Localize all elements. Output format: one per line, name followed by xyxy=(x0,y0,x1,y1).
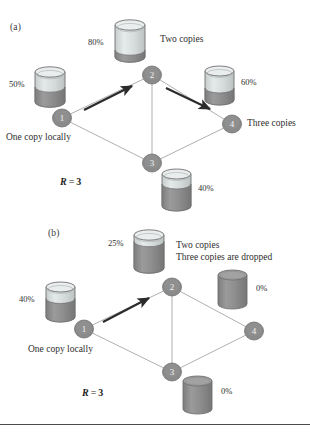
disk-node-4-percent: 0% xyxy=(256,284,267,294)
node-4[interactable]: 4 xyxy=(245,322,264,340)
disk-node-3-percent: 0% xyxy=(221,387,232,397)
disk-node-3 xyxy=(181,375,214,415)
node-3-label: 3 xyxy=(170,367,175,377)
node-4-label: 4 xyxy=(252,326,257,336)
arrow-group-b xyxy=(103,298,149,322)
edge-1-3 xyxy=(84,329,172,372)
node-2-label: 2 xyxy=(170,282,175,292)
arrow-1-to-2-icon xyxy=(103,298,149,322)
edge-3-4 xyxy=(172,331,254,372)
panel-b: (b) 1 xyxy=(0,0,310,437)
node-1-label: 1 xyxy=(82,324,87,334)
label-one-copy-locally: One copy locally xyxy=(28,344,93,355)
figure-replication-diagram: (a) xyxy=(0,0,310,437)
node-2[interactable]: 2 xyxy=(163,278,182,296)
bottom-rule xyxy=(0,424,310,425)
disk-node-2-percent: 25% xyxy=(108,239,124,249)
disk-node-2 xyxy=(132,229,166,274)
label-two-copies: Two copies xyxy=(176,240,219,251)
replication-equals-b: = xyxy=(91,387,97,398)
disk-node-4 xyxy=(216,269,249,310)
disk-node-1 xyxy=(44,281,77,323)
label-three-copies-dropped: Three copies are dropped xyxy=(176,252,272,263)
node-1[interactable]: 1 xyxy=(75,320,94,338)
disk-node-1-percent: 40% xyxy=(19,295,35,305)
node-3[interactable]: 3 xyxy=(163,363,182,381)
replication-factor-b: R=3 xyxy=(82,387,103,398)
panel-b-graph: 1 2 3 4 xyxy=(0,0,310,437)
replication-value-b: 3 xyxy=(98,387,103,398)
replication-symbol-b: R xyxy=(82,387,89,398)
